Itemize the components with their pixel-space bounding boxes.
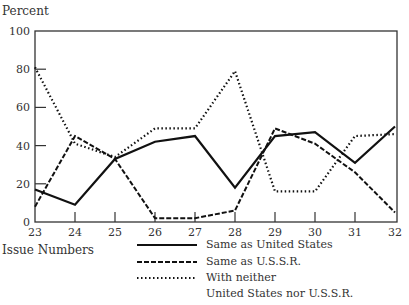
series-line-solid <box>35 127 395 205</box>
y-axis-title: Percent <box>2 4 49 18</box>
legend-label-ussr: Same as U.S.S.R. <box>206 255 301 268</box>
line-chart: 020406080100 23242526272829303132 <box>0 0 409 305</box>
y-tick-label: 40 <box>16 140 30 153</box>
y-tick-label: 20 <box>16 178 30 191</box>
y-tick-label: 100 <box>9 25 30 38</box>
x-tick-label: 24 <box>68 226 82 239</box>
series-line-dashed <box>35 128 395 218</box>
y-tick-label: 80 <box>16 63 30 76</box>
y-tick-label: 60 <box>16 101 30 114</box>
legend <box>137 245 197 278</box>
x-tick-label: 27 <box>188 226 202 239</box>
plot-frame <box>35 31 397 222</box>
x-axis-title: Issue Numbers <box>2 243 94 257</box>
x-tick-label: 32 <box>388 226 402 239</box>
x-tick-label: 26 <box>148 226 162 239</box>
x-axis-ticks: 23242526272829303132 <box>28 212 402 239</box>
data-lines <box>35 67 395 218</box>
x-tick-label: 25 <box>108 226 122 239</box>
legend-label-neither-cont: United States nor U.S.S.R. <box>206 287 353 300</box>
series-line-dotted <box>35 67 395 191</box>
x-tick-label: 31 <box>348 226 362 239</box>
legend-label-us: Same as United States <box>206 238 333 251</box>
legend-label-neither: With neither <box>206 271 276 284</box>
x-tick-label: 23 <box>28 226 42 239</box>
